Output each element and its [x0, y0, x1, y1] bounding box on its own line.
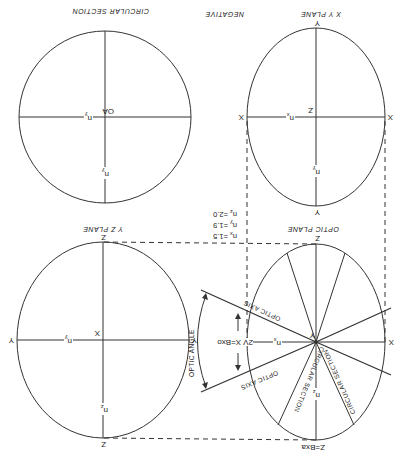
- index-nx: nx =1.5: [213, 230, 237, 240]
- index-nz: nz =2.0: [213, 208, 237, 218]
- yz-endpoint-y-right: Y: [9, 336, 14, 344]
- circular-ny-horizontal: ny: [84, 112, 93, 122]
- yz-center-label: X: [95, 329, 100, 337]
- optic-nz-label: nz: [313, 388, 320, 400]
- title-negative: NEGATIVE: [205, 11, 244, 18]
- xy-endpoint-x-left: X: [388, 113, 393, 121]
- index-ny: ny =1.9: [213, 219, 237, 229]
- caption-yz-plane: Y Z PLANE: [83, 226, 123, 233]
- optic-endpoint-z-bxa: Z=Bxa: [302, 443, 325, 451]
- diagram-drawing: [0, 0, 411, 455]
- yz-ny-label: ny: [64, 335, 73, 345]
- caption-xy-plane: X Y PLANE: [301, 11, 341, 18]
- optic-2v-label: 2V: [243, 338, 253, 346]
- circular-center-label: OA: [102, 107, 114, 115]
- optic-angle-label: OPTIC ANGLE: [189, 329, 196, 377]
- yz-endpoint-z-bottom: Z: [101, 233, 106, 241]
- xy-center-label: Z: [308, 106, 313, 114]
- optic-center-label: Y: [310, 331, 315, 339]
- caption-optic-plane: OPTIC PLANE: [287, 226, 339, 233]
- optic-nx-label: nx: [273, 337, 282, 347]
- optic-endpoint-x-bxo: X=Bxo: [217, 338, 241, 346]
- yz-nz-label: nz: [101, 403, 108, 415]
- yz-endpoint-z-top: Z: [101, 440, 106, 448]
- xy-ny-label: ny: [313, 165, 320, 177]
- optic-endpoint-x: X: [389, 338, 394, 346]
- xy-endpoint-y-bottom: Y: [315, 19, 320, 27]
- optic-endpoint-z-top: Z: [315, 234, 320, 242]
- indicatrix-diagram: NEGATIVE CIRCULAR SECTION OA ny ny X Y P…: [0, 0, 411, 455]
- caption-circular-section: CIRCULAR SECTION: [72, 8, 149, 15]
- xy-nx-label: nx: [286, 112, 295, 122]
- xy-endpoint-x-right: X: [239, 113, 244, 121]
- circular-ny-vertical: ny: [102, 167, 109, 179]
- xy-endpoint-y-top: Y: [315, 208, 320, 216]
